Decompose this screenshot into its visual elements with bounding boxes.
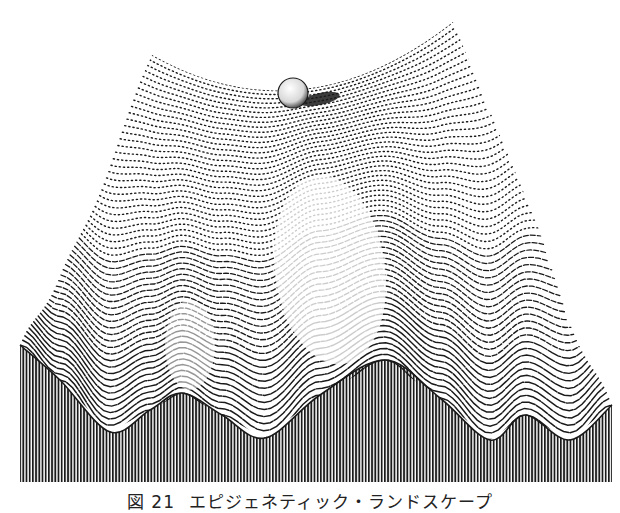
contour-line bbox=[113, 136, 499, 175]
valley-contours bbox=[20, 22, 612, 440]
hill-highlight bbox=[262, 168, 397, 371]
contour-line bbox=[111, 142, 502, 180]
caption-text: エピジェネティック・ランドスケープ bbox=[189, 492, 493, 512]
front-skirt-hatching bbox=[20, 345, 612, 482]
ball bbox=[278, 78, 308, 108]
caption-label: 図 21 bbox=[127, 492, 175, 512]
ridge-highlight bbox=[165, 300, 215, 390]
landscape-surface bbox=[20, 22, 612, 440]
ball-icon bbox=[278, 78, 341, 109]
figure-caption: 図 21エピジェネティック・ランドスケープ bbox=[0, 488, 620, 513]
